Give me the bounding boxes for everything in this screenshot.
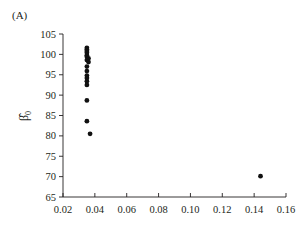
y-tick-label: 95 xyxy=(46,69,57,80)
y-tick-label: 70 xyxy=(46,171,57,182)
data-point xyxy=(258,174,263,179)
data-point xyxy=(86,60,91,65)
data-point xyxy=(84,83,89,88)
y-tick-label: 80 xyxy=(46,130,57,141)
x-tick-label: 0.10 xyxy=(181,204,199,215)
y-tick-label: 75 xyxy=(46,151,57,162)
x-tick-label: 0.04 xyxy=(86,204,105,215)
y-tick-label: 105 xyxy=(40,29,56,40)
y-tick-label: 65 xyxy=(46,192,57,203)
data-points xyxy=(84,45,262,178)
x-tick-label: 0.08 xyxy=(149,204,167,215)
data-point xyxy=(84,119,89,124)
x-tick-label: 0.16 xyxy=(277,204,295,215)
data-point xyxy=(84,69,89,74)
data-point xyxy=(84,64,89,69)
x-tick-label: 0.12 xyxy=(213,204,231,215)
y-tick-label: 90 xyxy=(46,90,57,101)
x-tick-label: 0.02 xyxy=(54,204,72,215)
data-point xyxy=(84,98,89,103)
y-axis-label: β̂0 xyxy=(17,111,33,121)
y-tick-label: 100 xyxy=(40,49,56,60)
x-tick-label: 0.06 xyxy=(118,204,136,215)
x-tick-label: 0.14 xyxy=(245,204,264,215)
y-tick-label: 85 xyxy=(46,110,57,121)
data-point xyxy=(88,131,93,136)
y-axis-label-text: β̂0 xyxy=(17,111,33,121)
scatter-chart: 657075808590951001050.020.040.060.080.10… xyxy=(0,0,308,230)
axes: 657075808590951001050.020.040.060.080.10… xyxy=(40,29,295,215)
